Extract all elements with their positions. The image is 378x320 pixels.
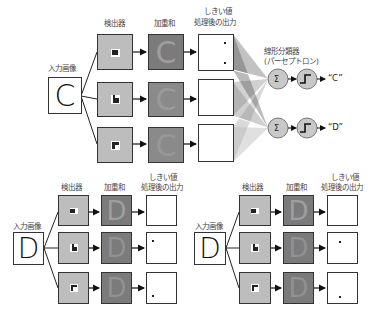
detector-label: 検出器 bbox=[242, 183, 263, 192]
threshold-label-2: 処理後の出力 bbox=[321, 183, 363, 192]
classifier-label-1: 線形分類器 bbox=[264, 47, 299, 56]
threshold-output-3 bbox=[146, 272, 177, 304]
br-input-branches bbox=[226, 212, 239, 288]
weighted-sum-2: D bbox=[283, 232, 314, 264]
detector-label: 検出器 bbox=[104, 19, 125, 28]
weighted-sum-3: D bbox=[101, 272, 132, 304]
input-image-label: 入力画像 bbox=[195, 222, 223, 231]
threshold-label-2: 処理後の出力 bbox=[194, 18, 236, 27]
bl-input-branches bbox=[44, 212, 58, 288]
output-label-c: “C” bbox=[328, 73, 343, 83]
weighted-sum-label: 加重和 bbox=[104, 183, 125, 192]
detector-2 bbox=[239, 232, 271, 264]
threshold-output-1 bbox=[146, 195, 177, 226]
threshold-label-2: 処理後の出力 bbox=[141, 183, 183, 192]
output-label-d: “D” bbox=[328, 122, 343, 132]
weighted-sum-2: C bbox=[148, 82, 184, 117]
detector-2 bbox=[58, 232, 89, 264]
threshold-output-3 bbox=[198, 124, 234, 162]
detector-1 bbox=[58, 195, 89, 226]
perceptron-weights-fan bbox=[233, 34, 268, 162]
sum-icon: Σ bbox=[274, 75, 279, 84]
input-image-d: D bbox=[13, 232, 44, 265]
weighted-sum-2: D bbox=[101, 232, 132, 264]
threshold-output-3 bbox=[327, 272, 358, 304]
weighted-sum-1: D bbox=[101, 195, 132, 226]
detector-label: 検出器 bbox=[61, 183, 82, 192]
sum-icon: Σ bbox=[274, 124, 279, 133]
weighted-sum-1: C bbox=[148, 34, 184, 70]
detector-2 bbox=[97, 82, 133, 117]
weighted-sum-3: D bbox=[283, 272, 314, 304]
input-image-d: D bbox=[194, 232, 226, 265]
threshold-output-2 bbox=[146, 232, 177, 264]
threshold-output-2 bbox=[327, 232, 358, 264]
threshold-label-1: しきい値 bbox=[149, 173, 177, 182]
threshold-label-1: しきい値 bbox=[331, 173, 359, 182]
input-image-label: 入力画像 bbox=[48, 64, 76, 73]
threshold-label-1: しきい値 bbox=[204, 7, 232, 16]
classifier-label-2: (パーセプトロン) bbox=[264, 57, 319, 66]
detector-3 bbox=[58, 272, 89, 304]
connections-layer bbox=[0, 0, 378, 320]
weighted-sum-3: C bbox=[148, 127, 184, 163]
weighted-sum-label: 加重和 bbox=[154, 19, 175, 28]
input-image-c: C bbox=[48, 77, 82, 114]
weighted-sum-1: D bbox=[283, 195, 314, 226]
detector-3 bbox=[239, 272, 271, 304]
weighted-sum-label: 加重和 bbox=[286, 183, 307, 192]
threshold-output-2 bbox=[198, 79, 234, 116]
threshold-output-1 bbox=[198, 34, 234, 71]
detector-1 bbox=[97, 34, 133, 70]
detector-3 bbox=[97, 127, 133, 163]
detector-1 bbox=[239, 195, 271, 226]
threshold-output-1 bbox=[327, 195, 358, 226]
input-image-label: 入力画像 bbox=[13, 222, 41, 231]
top-input-branches bbox=[81, 52, 97, 144]
